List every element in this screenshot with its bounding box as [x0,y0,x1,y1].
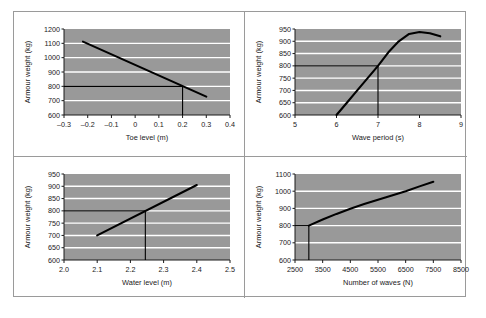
y-axis-tick-label: 750 [48,219,60,228]
x-axis-tick-label: 9 [459,120,463,129]
y-axis-tick-label: 700 [48,96,60,105]
x-axis-tick-label: 2500 [287,265,303,274]
y-axis-tick-label: 1000 [275,187,291,196]
y-axis-title: Armour weight (kg) [23,186,32,248]
chart-svg-toe-level: 600700800900100011001200–0.3–0.2–0.100.1… [14,12,244,156]
y-axis-tick-label: 800 [48,82,60,91]
x-axis-tick-label: 0.2 [178,120,188,129]
y-axis-tick-label: 750 [279,74,291,83]
chart-svg-water-level: 6006507007508008509009502.02.12.22.32.42… [14,157,244,301]
y-axis-tick-label: 800 [279,61,291,70]
y-axis-tick-label: 700 [279,86,291,95]
x-axis-tick-label: –0.1 [104,120,118,129]
x-axis-tick-label: 6500 [398,265,414,274]
y-axis-tick-label: 800 [279,221,291,230]
y-axis-tick-label: 950 [279,25,291,34]
x-axis-tick-label: 4500 [342,265,358,274]
y-axis-tick-label: 800 [48,206,60,215]
y-axis-tick-label: 900 [48,182,60,191]
x-axis-tick-label: –0.3 [57,120,71,129]
x-axis-title: Number of waves (N) [343,278,413,287]
y-axis-tick-label: 600 [279,256,291,265]
x-axis-tick-label: 0.4 [225,120,235,129]
x-axis-tick-label: 2.2 [125,265,135,274]
y-axis-tick-label: 650 [48,243,60,252]
y-axis-tick-label: 1200 [44,25,60,34]
x-axis-tick-label: 5500 [370,265,386,274]
y-axis-title: Armour weight (kg) [23,41,32,103]
x-axis-title: Wave period (s) [352,133,404,142]
x-axis-title: Toe level (m) [126,133,168,142]
x-axis-tick-label: 7500 [425,265,441,274]
y-axis-tick-label: 900 [279,37,291,46]
y-axis-title: Armour weight (kg) [254,41,263,103]
y-axis-tick-label: 950 [48,170,60,179]
y-axis-tick-label: 1000 [44,53,60,62]
y-axis-tick-label: 650 [279,98,291,107]
plot-background [295,174,461,260]
figure-frame: 600700800900100011001200–0.3–0.2–0.100.1… [13,11,466,297]
x-axis-tick-label: 7 [376,120,380,129]
x-axis-tick-label: 8 [418,120,422,129]
chart-panel-toe-level: 600700800900100011001200–0.3–0.2–0.100.1… [14,12,244,156]
y-axis-tick-label: 700 [279,238,291,247]
chart-panel-number-of-waves: 6007008009001000110025003500450055006500… [245,157,475,301]
x-axis-title: Water level (m) [122,278,172,287]
chart-panel-water-level: 6006507007508008509009502.02.12.22.32.42… [14,157,244,301]
x-axis-tick-label: 0 [133,120,137,129]
y-axis-tick-label: 850 [279,49,291,58]
y-axis-title: Armour weight (kg) [254,186,263,248]
chart-svg-wave-period: 60065070075080085090095056789Wave period… [245,12,475,156]
x-axis-tick-label: 8500 [453,265,469,274]
x-axis-tick-label: 2.5 [225,265,235,274]
y-axis-tick-label: 900 [48,68,60,77]
x-axis-tick-label: 2.0 [59,265,69,274]
y-axis-tick-label: 700 [48,231,60,240]
x-axis-tick-label: 5 [293,120,297,129]
y-axis-tick-label: 1100 [45,39,60,48]
chart-svg-number-of-waves: 6007008009001000110025003500450055006500… [245,157,475,301]
x-axis-tick-label: 2.3 [159,265,169,274]
y-axis-tick-label: 1100 [276,170,291,179]
x-axis-tick-label: 0.1 [154,120,164,129]
x-axis-tick-label: 2.1 [92,265,102,274]
y-axis-tick-label: 900 [279,204,291,213]
chart-panel-wave-period: 60065070075080085090095056789Wave period… [245,12,475,156]
x-axis-tick-label: 3500 [315,265,331,274]
x-axis-tick-label: –0.2 [81,120,95,129]
x-axis-tick-label: 0.3 [201,120,211,129]
x-axis-tick-label: 6 [335,120,339,129]
y-axis-tick-label: 600 [279,111,291,120]
y-axis-tick-label: 850 [48,194,60,203]
x-axis-tick-label: 2.4 [192,265,202,274]
y-axis-tick-label: 600 [48,111,60,120]
y-axis-tick-label: 600 [48,256,60,265]
